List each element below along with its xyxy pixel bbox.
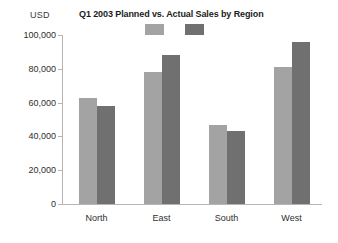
x-axis-line <box>62 204 322 205</box>
plot-area: 020,00040,00060,00080,000100,000 NorthEa… <box>62 35 322 204</box>
bar-north-actual <box>97 106 115 204</box>
bar-east-planned <box>144 72 162 204</box>
y-axis-tick <box>58 69 62 70</box>
bar-north-planned <box>79 98 97 204</box>
y-axis-tick-label: 100,000 <box>23 30 56 40</box>
bar-west-planned <box>274 67 292 204</box>
y-axis-unit-label: USD <box>30 10 50 20</box>
legend-swatch-actual <box>185 24 204 35</box>
y-axis-tick-label: 60,000 <box>28 98 56 108</box>
y-axis-line <box>62 35 63 204</box>
y-axis-tick <box>58 103 62 104</box>
x-axis-label-west: West <box>262 213 322 223</box>
y-axis-tick <box>58 136 62 137</box>
bar-group <box>209 35 245 204</box>
y-axis-tick <box>58 35 62 36</box>
bar-group <box>274 35 310 204</box>
y-axis-tick-label: 20,000 <box>28 165 56 175</box>
bar-south-planned <box>209 125 227 204</box>
x-axis-label-east: East <box>132 213 192 223</box>
x-axis-label-south: South <box>197 213 257 223</box>
x-axis-label-north: North <box>67 213 127 223</box>
bar-west-actual <box>292 42 310 204</box>
bar-group <box>79 35 115 204</box>
chart-title: Q1 2003 Planned vs. Actual Sales by Regi… <box>79 9 264 19</box>
y-axis-tick-label: 80,000 <box>28 64 56 74</box>
bar-group <box>144 35 180 204</box>
y-axis-tick-label: 40,000 <box>28 131 56 141</box>
y-axis-tick-label: 0 <box>51 199 56 209</box>
chart-screenshot: USD Q1 2003 Planned vs. Actual Sales by … <box>0 0 338 243</box>
y-axis-tick <box>58 204 62 205</box>
y-axis-tick <box>58 170 62 171</box>
legend-swatch-planned <box>145 24 164 35</box>
bar-south-actual <box>227 131 245 205</box>
bar-east-actual <box>162 55 180 204</box>
